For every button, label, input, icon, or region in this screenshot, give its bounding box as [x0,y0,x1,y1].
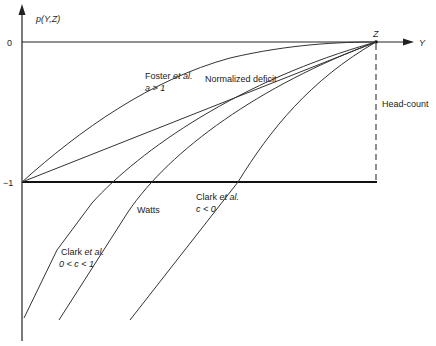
head-count-label: Head-count [382,99,429,109]
clark-frac-label-line2: 0 < c < 1 [59,259,94,269]
normalized-deficit-label: Normalized deficit [205,74,277,84]
x-axis-arrow-icon [403,39,414,46]
clark-neg-label-line1: Clark et al. [196,192,239,202]
tick-zero: 0 [7,38,12,48]
foster-label-line2: a > 1 [145,83,165,93]
x-axis-label: Y [419,38,426,48]
watts-label: Watts [137,205,160,215]
tick-minus-one: −1 [3,178,13,188]
point-z-label: Z [372,29,379,39]
clark-neg-label-line2: c < 0 [196,204,216,214]
y-axis-arrow-icon [19,4,26,15]
clark-frac-label-line1: Clark et al. [61,247,104,257]
foster-label-line1: Foster et al. [145,71,193,81]
clark-frac-curve [24,42,376,318]
normalized-deficit-line [22,42,376,182]
poverty-measures-diagram: p(Y,Z) 0 −1 Z Y Head-count Normalized de… [0,0,436,346]
y-axis-label: p(Y,Z) [35,14,60,24]
